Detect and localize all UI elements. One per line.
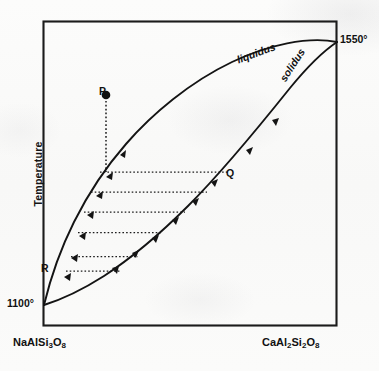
direction-arrow-icon	[246, 147, 253, 155]
figure-page: Temperature NaAlSi3O8 CaAl2Si2O8 1100° 1…	[0, 0, 379, 371]
direction-arrow-icon	[106, 172, 113, 180]
point-label-r: R	[41, 262, 49, 274]
solidus-curve	[44, 42, 337, 305]
y-axis-title: Temperature	[32, 129, 44, 219]
direction-arrow-icon	[64, 273, 71, 281]
direction-arrow-icon	[71, 254, 78, 262]
tie-line-group	[66, 172, 228, 271]
temperature-low-label: 1100°	[7, 297, 34, 309]
point-label-q: Q	[226, 167, 234, 179]
direction-arrow-icon	[272, 118, 279, 126]
liquidus-arrow-markers	[64, 150, 126, 281]
point-label-p: P	[99, 85, 106, 97]
direction-arrow-icon	[79, 232, 86, 240]
x-axis-right-endmember-label: CaAl2Si2O8	[262, 336, 319, 348]
phase-diagram-plot	[0, 0, 379, 371]
temperature-high-label: 1550°	[340, 33, 368, 45]
liquidus-curve	[44, 40, 337, 305]
solidus-arrow-markers	[112, 118, 279, 274]
x-axis-left-endmember-label: NaAlSi3O8	[13, 336, 66, 348]
